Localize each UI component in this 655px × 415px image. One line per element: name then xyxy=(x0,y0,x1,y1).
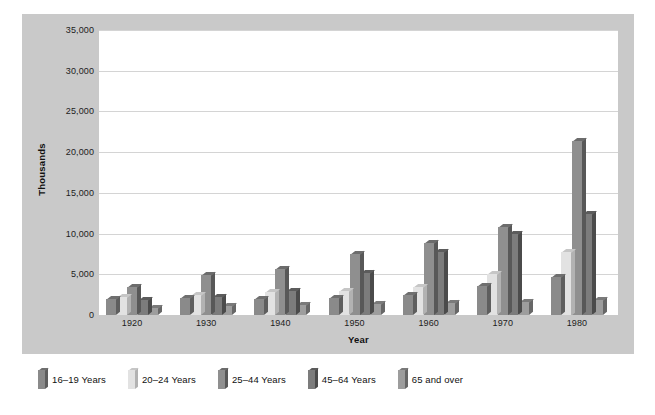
bar[interactable] xyxy=(551,277,561,315)
legend-swatch-face xyxy=(218,370,225,389)
bar-side xyxy=(571,248,575,315)
bar-face xyxy=(551,277,561,315)
bar-face xyxy=(106,299,116,315)
legend-swatch-face xyxy=(308,370,315,389)
bar-side xyxy=(444,249,448,315)
x-axis-tick-label: 1930 xyxy=(171,318,241,328)
legend-label: 25–44 Years xyxy=(232,374,286,385)
y-axis-tick-label: 25,000 xyxy=(36,106,94,116)
legend-swatch-face xyxy=(128,370,135,389)
bar[interactable] xyxy=(254,299,264,315)
legend-label: 65 and over xyxy=(412,374,463,385)
legend-swatch xyxy=(38,370,45,389)
bar-side xyxy=(275,289,279,315)
bar-side xyxy=(508,224,512,315)
legend-label: 16–19 Years xyxy=(52,374,106,385)
bar-group xyxy=(106,30,162,315)
bar-side xyxy=(497,271,501,315)
bar-face xyxy=(180,298,190,315)
x-axis-tick-label: 1980 xyxy=(542,318,612,328)
bar[interactable] xyxy=(403,295,413,315)
bar-side xyxy=(370,270,374,315)
legend-swatch xyxy=(398,370,405,389)
y-axis-tick-label: 15,000 xyxy=(36,188,94,198)
bar[interactable] xyxy=(106,299,116,315)
bar-group xyxy=(551,30,607,315)
y-axis-tick-label: 5,000 xyxy=(36,269,94,279)
y-axis-tick-label: 0 xyxy=(36,310,94,320)
bar[interactable] xyxy=(477,286,487,315)
legend-item[interactable]: 20–24 Years xyxy=(128,370,196,389)
chart-legend: 16–19 Years20–24 Years25–44 Years45–64 Y… xyxy=(38,368,485,390)
chart-figure: Thousands 05,00010,00015,00020,00025,000… xyxy=(0,0,655,415)
chart-card: Thousands 05,00010,00015,00020,00025,000… xyxy=(22,14,634,354)
legend-swatch-face xyxy=(398,370,405,389)
bar-side xyxy=(137,284,141,315)
y-axis-tick-labels: 05,00010,00015,00020,00025,00030,00035,0… xyxy=(30,30,94,315)
legend-item[interactable]: 65 and over xyxy=(398,370,463,389)
bar-side xyxy=(423,284,427,315)
bar-side xyxy=(349,288,353,315)
plot-area xyxy=(99,30,618,315)
x-axis-tick-label: 1920 xyxy=(97,318,167,328)
x-axis-tick-label: 1940 xyxy=(245,318,315,328)
bar-face xyxy=(329,298,339,315)
bar[interactable] xyxy=(329,298,339,315)
bar-group xyxy=(254,30,310,315)
x-axis-tick-label: 1950 xyxy=(320,318,390,328)
y-axis-tick-label: 10,000 xyxy=(36,229,94,239)
y-axis-tick-label: 20,000 xyxy=(36,147,94,157)
bar-group xyxy=(477,30,533,315)
bar-side xyxy=(487,283,491,315)
legend-label: 45–64 Years xyxy=(322,374,376,385)
x-axis-tick-labels: 1920193019401950196019701980 xyxy=(99,318,618,334)
x-axis-tick-label: 1960 xyxy=(394,318,464,328)
bar-side xyxy=(592,211,596,315)
legend-label: 20–24 Years xyxy=(142,374,196,385)
bar-group xyxy=(329,30,385,315)
x-axis-tick-label: 1970 xyxy=(468,318,538,328)
legend-item[interactable]: 25–44 Years xyxy=(218,370,286,389)
bar-group xyxy=(403,30,459,315)
legend-item[interactable]: 16–19 Years xyxy=(38,370,106,389)
bar-side xyxy=(582,138,586,315)
bar[interactable] xyxy=(180,298,190,315)
bar-group xyxy=(180,30,236,315)
x-axis-title: Year xyxy=(99,334,618,345)
legend-swatch xyxy=(218,370,225,389)
bar-side xyxy=(211,272,215,315)
legend-swatch xyxy=(308,370,315,389)
legend-swatch-face xyxy=(38,370,45,389)
bar-side xyxy=(285,265,289,315)
bar-face xyxy=(477,286,487,315)
y-axis-tick-label: 35,000 xyxy=(36,25,94,35)
bar-face xyxy=(403,295,413,315)
bar-side xyxy=(561,274,565,315)
legend-swatch xyxy=(128,370,135,389)
bar-side xyxy=(434,240,438,315)
bar-face xyxy=(254,299,264,315)
legend-item[interactable]: 45–64 Years xyxy=(308,370,376,389)
y-axis-tick-label: 30,000 xyxy=(36,66,94,76)
bar-side xyxy=(518,230,522,315)
bar-side xyxy=(360,251,364,315)
